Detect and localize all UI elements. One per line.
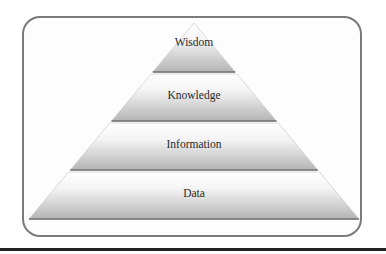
bottom-rule <box>0 248 386 251</box>
level-label-wisdom: Wisdom <box>175 36 214 48</box>
level-label-information: Information <box>167 138 222 150</box>
level-label-data: Data <box>183 187 205 199</box>
pyramid-diagram: Wisdom Knowledge Information Data <box>0 0 386 254</box>
level-label-knowledge: Knowledge <box>167 89 220 102</box>
